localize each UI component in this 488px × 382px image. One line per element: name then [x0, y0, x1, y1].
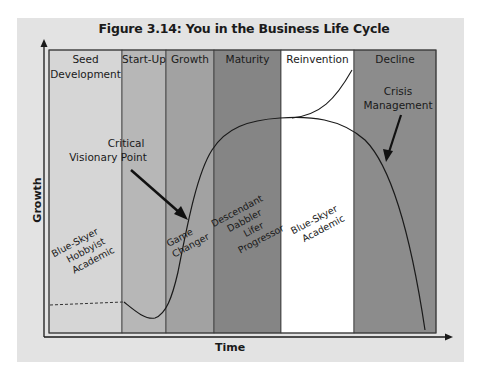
svg-text:Critical: Critical	[108, 137, 145, 149]
stage-label: Seed	[72, 53, 98, 65]
stage-bands	[49, 50, 436, 333]
stage-label: Growth	[171, 53, 209, 65]
x-axis-arrow-icon	[445, 334, 453, 341]
svg-text:Crisis: Crisis	[384, 85, 412, 97]
stage-band-1	[122, 50, 166, 333]
stage-band-4	[281, 50, 354, 333]
stage-band-3	[214, 50, 281, 333]
y-axis-label: Growth	[31, 177, 44, 222]
x-axis-label: Time	[215, 341, 245, 354]
stage-label: Maturity	[226, 53, 270, 65]
stage-band-0	[49, 50, 122, 333]
stage-label: Start-Up	[122, 53, 166, 65]
life-cycle-diagram: SeedDevelopmentStart-UpGrowthMaturityRei…	[0, 0, 488, 382]
svg-text:Management: Management	[363, 99, 432, 111]
y-axis-arrow-icon	[41, 39, 48, 47]
stage-label: Decline	[375, 53, 414, 65]
stage-label: Reinvention	[286, 53, 348, 65]
svg-text:Visionary Point: Visionary Point	[69, 151, 147, 163]
stage-label: Development	[50, 68, 121, 80]
